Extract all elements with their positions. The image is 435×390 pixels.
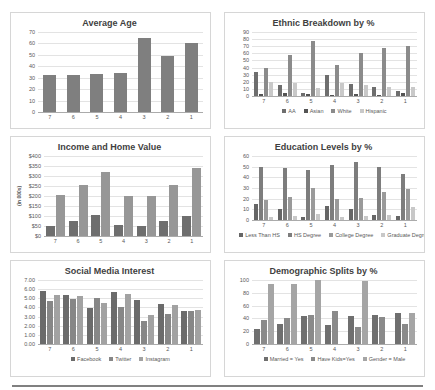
y-tick-label: $350 — [29, 163, 41, 169]
x-axis-labels: 7654321 — [38, 114, 203, 120]
bar — [335, 199, 339, 220]
y-tick-label: 2.00 — [24, 323, 35, 329]
chart-main-column: 7654321 — [44, 156, 203, 244]
x-tick-label: 4 — [323, 346, 347, 352]
legend-item: Instagram — [139, 356, 169, 362]
bar — [354, 94, 358, 96]
x-axis-labels: 7654321 — [252, 98, 417, 104]
bar — [91, 215, 100, 236]
bar — [306, 94, 310, 96]
legend-label: Asian — [310, 108, 324, 114]
bar — [101, 303, 107, 344]
y-tick-label: $100 — [29, 213, 41, 219]
bar — [47, 301, 53, 344]
bar — [396, 216, 400, 220]
chart-main-column: 7654321AAAsianWhiteHispanic — [252, 32, 417, 114]
chart-plot-area: 90807060504030201007654321AAAsianWhiteHi… — [230, 32, 417, 114]
x-tick-label: 5 — [299, 98, 323, 104]
bar — [77, 296, 83, 344]
y-tick-label: $300 — [29, 173, 41, 179]
chart-legend: FacebookTwitterInstagram — [38, 356, 203, 362]
bar — [63, 295, 69, 344]
bar — [283, 93, 287, 96]
legend-swatch — [282, 109, 286, 113]
legend-item: Graduate Degree — [381, 232, 425, 238]
bar-group — [276, 156, 300, 220]
legend-swatch — [311, 357, 315, 361]
legend-label: HS Degree — [294, 232, 321, 238]
chart-title: Ethnic Breakdown by % — [230, 18, 417, 28]
y-tick-label: 10 — [29, 98, 35, 104]
legend-swatch — [71, 357, 75, 361]
bar — [401, 174, 405, 220]
bar-group — [85, 280, 109, 344]
bar-group — [276, 32, 300, 96]
bar — [43, 75, 56, 112]
x-axis-labels: 7654321 — [38, 346, 203, 352]
y-tick-label: 100 — [240, 277, 249, 283]
bar-series — [38, 280, 203, 344]
x-tick-label: 4 — [109, 114, 133, 120]
bar-group — [132, 280, 156, 344]
y-tick-label: $0 — [35, 233, 41, 239]
bar — [94, 298, 100, 344]
legend-label: Facebook — [77, 356, 101, 362]
bar-group — [323, 32, 347, 96]
bar-group — [67, 156, 90, 236]
bar — [409, 313, 415, 344]
y-axis-ticks: 100806040200 — [230, 280, 252, 344]
bar — [311, 41, 315, 96]
plot-region — [44, 156, 203, 237]
x-axis-labels: 7654321 — [44, 238, 203, 244]
bar-group — [252, 32, 276, 96]
bar-group — [109, 280, 133, 344]
x-tick-label: 1 — [393, 98, 417, 104]
x-tick-label: 5 — [299, 222, 323, 228]
bar — [185, 43, 198, 112]
x-tick-label: 1 — [179, 114, 203, 120]
chart-main-column: 7654321Married = YesHave Kids=YesGender … — [252, 280, 417, 362]
bar-group — [299, 32, 323, 96]
chart-card-income-home-value: Income and Home Value (in 000s)$400$350$… — [10, 136, 211, 253]
y-axis-ticks: $400$350$300$250$200$150$100$50$0 — [22, 156, 44, 236]
chart-title: Social Media Interest — [16, 266, 203, 276]
bar — [377, 95, 381, 96]
bar — [259, 167, 263, 220]
bar — [359, 53, 363, 96]
chart-card-social-media-interest: Social Media Interest 7.006.005.004.003.… — [10, 260, 211, 377]
bar-group — [89, 156, 112, 236]
y-tick-label: 30 — [29, 75, 35, 81]
bar — [114, 73, 127, 112]
plot-region — [252, 280, 417, 345]
y-tick-label: $400 — [29, 153, 41, 159]
legend-swatch — [331, 109, 335, 113]
bar-group — [135, 156, 158, 236]
legend-label: Twitter — [115, 356, 131, 362]
bottom-divider — [12, 385, 423, 387]
legend-label: Less Than HS — [245, 232, 280, 238]
bar — [301, 316, 307, 344]
bar — [406, 46, 410, 96]
bar — [316, 214, 320, 220]
bar-group — [323, 280, 347, 344]
bar — [188, 311, 194, 344]
x-tick-label: 3 — [346, 346, 370, 352]
bar-group — [346, 280, 370, 344]
x-tick-label: 7 — [44, 238, 67, 244]
bar — [293, 83, 297, 96]
legend-label: White — [337, 108, 351, 114]
plot-region — [38, 32, 203, 113]
bar — [124, 196, 133, 236]
bar-series — [252, 280, 417, 344]
bar — [169, 185, 178, 236]
y-tick-label: 0 — [246, 93, 249, 99]
bar — [301, 217, 305, 220]
y-tick-label: 70 — [243, 43, 249, 49]
bar-group — [112, 156, 135, 236]
legend-swatch — [329, 233, 333, 237]
y-tick-label: 70 — [29, 29, 35, 35]
x-tick-label: 4 — [323, 98, 347, 104]
y-tick-label: 50 — [29, 52, 35, 58]
bar — [411, 87, 415, 96]
bar — [259, 94, 263, 96]
